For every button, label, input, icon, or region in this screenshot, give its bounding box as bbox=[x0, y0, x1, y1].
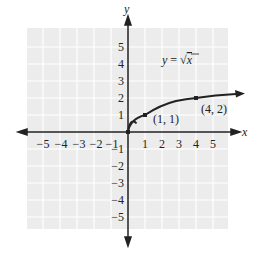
equation-label: y = √x bbox=[161, 53, 193, 67]
y-tick: 4 bbox=[118, 57, 124, 71]
x-tick: 3 bbox=[176, 137, 182, 151]
y-tick: 3 bbox=[118, 74, 124, 88]
x-tick: −2 bbox=[90, 137, 103, 151]
y-tick: −2 bbox=[111, 159, 124, 173]
point-4-2-label: (4, 2) bbox=[201, 102, 227, 116]
x-tick: 5 bbox=[210, 137, 216, 151]
curve-arrow-icon bbox=[235, 90, 245, 98]
y-tick: −4 bbox=[111, 193, 124, 207]
y-tick: 2 bbox=[118, 91, 124, 105]
x-tick: −5 bbox=[37, 137, 50, 151]
x-tick: 1 bbox=[142, 137, 148, 151]
sqrt-graph: x y −5 −4 −3 −2 −1 1 2 3 4 5 5 4 3 2 1 −… bbox=[0, 0, 262, 253]
x-tick: −3 bbox=[73, 137, 86, 151]
point-1-1-label: (1, 1) bbox=[153, 112, 179, 126]
x-axis-right-arrow-icon bbox=[231, 129, 240, 135]
y-tick: −5 bbox=[111, 210, 124, 224]
point-1-1 bbox=[143, 113, 147, 117]
y-tick: −3 bbox=[111, 176, 124, 190]
y-tick: −1 bbox=[111, 142, 124, 156]
y-axis-up-arrow-icon bbox=[125, 16, 131, 25]
y-tick: 5 bbox=[118, 40, 124, 54]
x-tick: −4 bbox=[55, 137, 68, 151]
x-tick: 2 bbox=[159, 137, 165, 151]
point-origin bbox=[126, 130, 130, 134]
y-axis-down-arrow-icon bbox=[125, 237, 131, 246]
x-tick: 4 bbox=[193, 137, 199, 151]
y-tick: 1 bbox=[118, 108, 124, 122]
y-axis-label: y bbox=[123, 2, 130, 16]
point-4-2 bbox=[194, 96, 198, 100]
x-axis-left-arrow-icon bbox=[18, 129, 27, 135]
x-axis-label: x bbox=[241, 125, 248, 139]
